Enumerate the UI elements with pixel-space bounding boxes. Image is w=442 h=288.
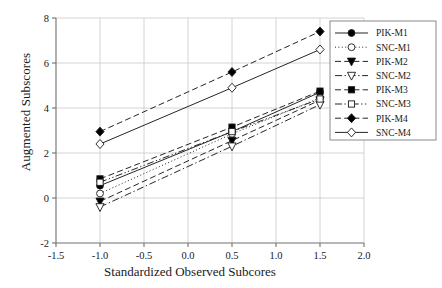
x-tick-label: 2.0: [357, 250, 370, 261]
data-point-open-circle: [97, 190, 104, 197]
data-point-open-diamond: [228, 83, 236, 92]
series-line-SNC-M4: [100, 50, 320, 145]
series-line-PIK-M2: [100, 100, 320, 201]
data-point-filled-diamond: [316, 27, 324, 36]
x-axis-title: Standardized Observed Subcores: [0, 264, 380, 280]
x-tick-label: 0.5: [225, 250, 238, 261]
legend-label-PIK-M4[interactable]: PIK-M4: [376, 114, 408, 124]
data-point-open-square: [348, 101, 354, 107]
series-line-PIK-M1: [100, 92, 320, 185]
y-tick-label: 8: [44, 13, 49, 24]
y-tick-label: 2: [44, 148, 49, 159]
data-point-open-square: [229, 129, 235, 135]
legend-label-PIK-M2[interactable]: PIK-M2: [376, 57, 408, 67]
x-tick-label: 1.5: [313, 250, 326, 261]
y-tick-label: 6: [44, 58, 49, 69]
data-point-filled-diamond: [96, 127, 104, 136]
legend-label-SNC-M3[interactable]: SNC-M3: [376, 99, 411, 109]
y-axis-title: Augmented Subscores: [18, 42, 34, 182]
data-point-open-square: [97, 179, 103, 185]
legend-label-SNC-M1[interactable]: SNC-M1: [376, 43, 411, 53]
x-tick-label: 1.0: [269, 250, 282, 261]
legend-label-SNC-M2[interactable]: SNC-M2: [376, 71, 411, 81]
series-line-PIK-M3: [100, 91, 320, 179]
data-point-open-triangle-down: [228, 143, 236, 151]
chart-figure: -202468-1.5-1.0-0.50.00.51.01.52.0PIK-M1…: [0, 0, 442, 288]
chart-canvas: -202468-1.5-1.0-0.50.00.51.01.52.0PIK-M1…: [0, 0, 442, 288]
data-point-open-circle: [348, 44, 355, 51]
data-point-open-triangle-down: [96, 204, 104, 212]
legend-label-PIK-M1[interactable]: PIK-M1: [376, 28, 408, 38]
data-point-filled-square: [348, 87, 354, 93]
y-tick-label: 0: [44, 193, 49, 204]
data-point-open-square: [317, 96, 323, 102]
x-tick-label: -1.0: [92, 250, 109, 261]
data-point-filled-square: [317, 88, 323, 94]
legend-label-PIK-M3[interactable]: PIK-M3: [376, 85, 408, 95]
x-tick-label: -0.5: [136, 250, 153, 261]
series-line-SNC-M2: [100, 105, 320, 207]
data-point-filled-diamond: [228, 68, 236, 77]
data-point-filled-circle: [348, 30, 355, 37]
data-point-open-diamond: [96, 140, 104, 149]
series-line-PIK-M4: [100, 32, 320, 132]
series-line-SNC-M1: [100, 98, 320, 194]
y-tick-label: 4: [44, 103, 50, 114]
x-tick-label: 0.0: [181, 250, 194, 261]
data-point-open-diamond: [316, 45, 324, 54]
y-tick-label: -2: [40, 238, 49, 249]
x-tick-label: -1.5: [48, 250, 65, 261]
legend-label-SNC-M4[interactable]: SNC-M4: [376, 128, 411, 138]
